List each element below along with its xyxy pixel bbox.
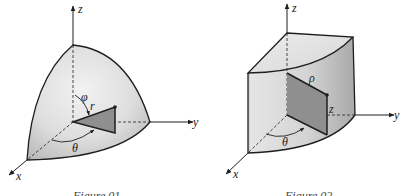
rho-label: ρ [308, 71, 315, 85]
figure-caption: Figure 01 [72, 189, 120, 196]
figure-spherical: z y x r φ θ Figure 01 [9, 2, 199, 196]
height-label: z [328, 102, 334, 116]
z-axis-label: z [291, 1, 297, 15]
coordinate-figures: z y x r φ θ Figure 01 z [0, 0, 402, 196]
y-axis-label: y [393, 108, 400, 122]
figure-caption: Figure 02 [284, 189, 332, 196]
theta-label: θ [72, 141, 78, 155]
x-axis-label: x [232, 167, 239, 181]
radius-label: r [90, 99, 95, 113]
theta-label: θ [282, 135, 288, 149]
x-axis-label: x [15, 169, 22, 183]
sphere-octant-surface [27, 45, 150, 160]
figure-cylindrical: z ρ z θ y x Figure 02 [226, 1, 400, 196]
point-marker [113, 105, 117, 109]
phi-label: φ [81, 90, 88, 104]
point-marker [325, 93, 329, 97]
z-axis-label: z [77, 2, 83, 16]
y-axis-label: y [192, 115, 199, 129]
